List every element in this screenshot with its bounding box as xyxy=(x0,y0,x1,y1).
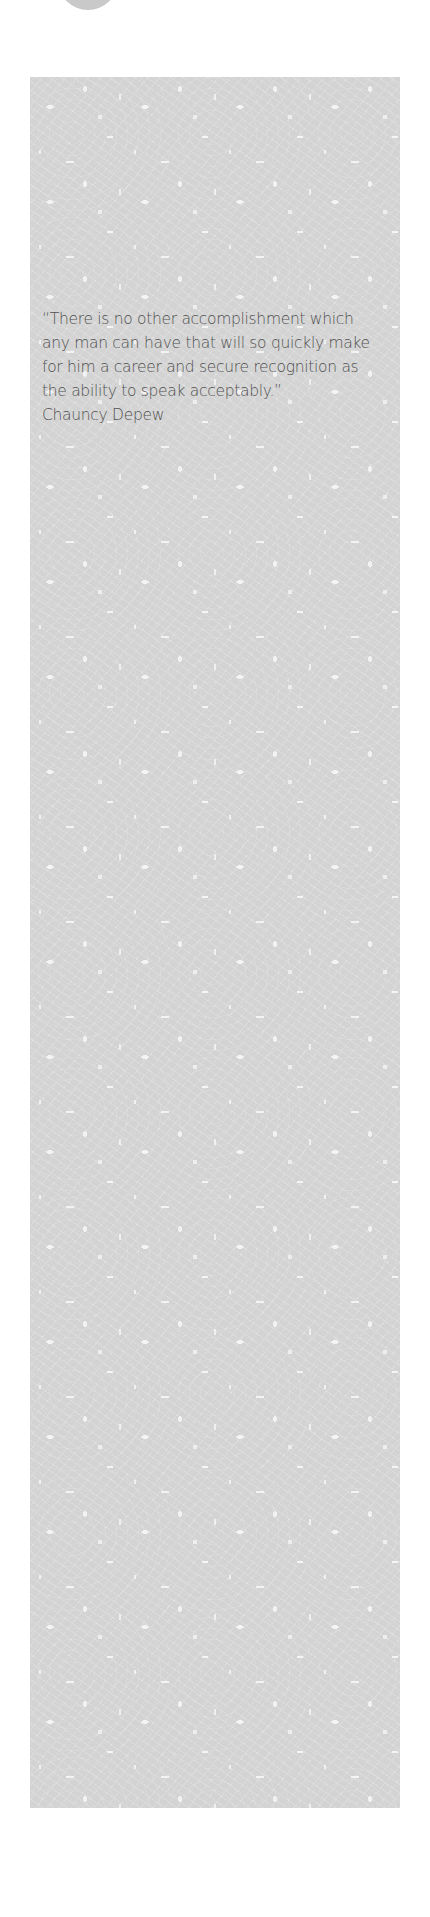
decorative-circle xyxy=(58,0,118,10)
quote-block: “There is no other accomplishment which … xyxy=(42,307,382,427)
quote-author: Chauncy Depew xyxy=(42,403,382,427)
quote-text: “There is no other accomplishment which … xyxy=(42,307,382,403)
